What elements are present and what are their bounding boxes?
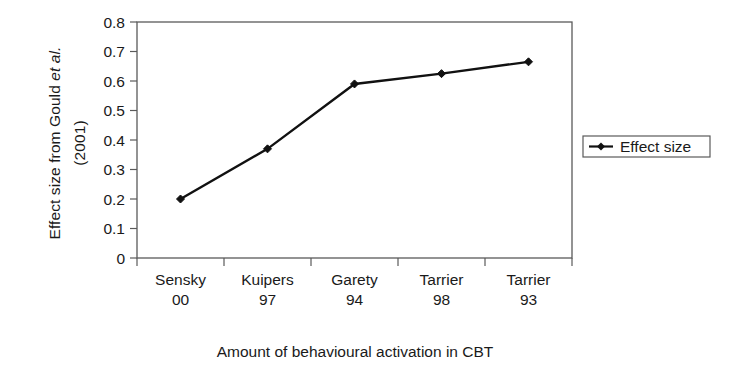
x-category-label: 94	[346, 291, 364, 308]
legend-entry-label: Effect size	[620, 138, 691, 155]
x-category-label: Garety	[331, 271, 378, 288]
y-tick-label: 0.7	[103, 43, 125, 60]
chart-legend[interactable]: Effect size	[583, 136, 710, 157]
x-category-label: 93	[520, 291, 537, 308]
y-tick-label: 0.3	[103, 161, 125, 178]
y-tick-label: 0	[116, 250, 125, 267]
x-category-label: Tarrier	[420, 271, 464, 288]
x-axis-title: Amount of behavioural activation in CBT	[217, 343, 494, 360]
plot-frame	[137, 22, 572, 258]
chart-figure: Effect size from Gould et al. (2001) 00.…	[0, 0, 749, 369]
x-category-label: 98	[433, 291, 450, 308]
line-chart-plot: 00.10.20.30.40.50.60.70.8 Sensky00Kuiper…	[0, 0, 749, 369]
x-axis-category-labels: Sensky00Kuipers97Garety94Tarrier98Tarrie…	[155, 271, 550, 308]
y-axis-ticks	[130, 22, 137, 258]
data-point-marker	[438, 70, 446, 78]
y-tick-label: 0.6	[103, 73, 125, 90]
data-series-effect-size	[177, 58, 533, 203]
x-category-label: 00	[172, 291, 190, 308]
x-category-label: Tarrier	[507, 271, 551, 288]
y-tick-label: 0.1	[103, 220, 125, 237]
y-tick-label: 0.2	[103, 191, 125, 208]
x-category-label: Kuipers	[241, 271, 294, 288]
data-point-marker	[525, 58, 533, 66]
y-tick-label: 0.5	[103, 102, 125, 119]
y-tick-label: 0.4	[103, 132, 125, 149]
y-tick-label: 0.8	[103, 14, 125, 31]
x-axis-ticks	[137, 258, 572, 266]
y-axis-tick-labels: 00.10.20.30.40.50.60.70.8	[103, 14, 125, 267]
x-category-label: Sensky	[155, 271, 206, 288]
x-category-label: 97	[259, 291, 276, 308]
